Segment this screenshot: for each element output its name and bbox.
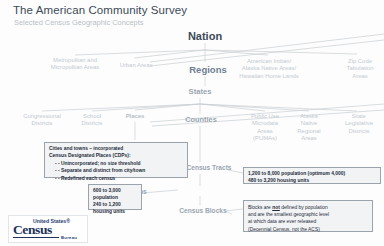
callout-tracts-line-2: 480 to 3,200 housing units <box>247 177 377 184</box>
node-pumas: Public Use Microdata Areas (PUMAs) <box>244 113 286 143</box>
callout-block-groups: 600 to 3,000 population 240 to 1,200 hou… <box>88 184 142 210</box>
node-counties: Counties <box>178 116 224 125</box>
callout-bgroups-line-1: 600 to 3,000 <box>92 187 138 194</box>
callout-census-tracts: 1,200 to 8,000 population (optimum 4,000… <box>243 167 381 184</box>
callout-bgroups-line-4: housing units <box>92 208 138 215</box>
slide-canvas: The American Community Survey Selected C… <box>0 0 384 246</box>
callout-census-blocks: Blocks are not defined by population and… <box>243 200 373 232</box>
logo-underline-rule <box>13 237 59 238</box>
node-metropolitan-areas: Metropolitan and Micropolitan Areas <box>42 57 108 72</box>
node-congressional-districts: Congressional Districts <box>16 113 68 128</box>
node-states: States <box>170 88 230 97</box>
callout-blocks-line-1: Blocks are not defined by population <box>248 204 368 211</box>
node-school-districts: School Districts <box>72 113 112 128</box>
callout-bgroups-line-2: population <box>92 194 138 201</box>
callout-places-line-2: Census Designated Places (CDPs): <box>48 152 184 159</box>
node-census-tracts: Census Tracts <box>185 164 233 172</box>
callout-tracts-line-1: 1,200 to 8,000 population (optimum 4,000… <box>247 170 377 177</box>
node-census-blocks: Census Blocks <box>178 207 228 215</box>
page-title: The American Community Survey <box>13 4 187 16</box>
callout-bgroups-line-3: 240 to 1,200 <box>92 201 138 208</box>
node-regions: Regions <box>178 64 238 75</box>
callout-places-sub-2: - - Separate and distinct from city/town <box>48 167 184 174</box>
node-urban-areas: Urban Areas <box>116 62 156 69</box>
callout-blocks-emphasis: not <box>272 205 280 210</box>
callout-blocks-line-2: and are the smallest geographic level <box>248 211 368 218</box>
callout-places: Cities and towns – incorporated Census D… <box>44 142 188 178</box>
node-zip-code-tabulation-areas: Zip Code Tabulation Areas <box>340 58 380 80</box>
node-nation: Nation <box>170 30 240 43</box>
callout-blocks-line-3: at which data are ever released <box>248 218 368 225</box>
callout-blocks-text-b: defined by population <box>280 205 328 210</box>
logo-bureau-text: Bureau <box>61 235 77 240</box>
census-bureau-logo: United States® Census Bureau <box>8 215 88 243</box>
node-american-indian-areas: American Indian/ Alaska Native Areas/ Ha… <box>238 58 300 80</box>
callout-places-line-1: Cities and towns – incorporated <box>48 145 184 152</box>
node-places: Places <box>118 113 152 120</box>
callout-places-sub-1: - - Unincorporated; no size threshold <box>48 160 184 167</box>
callout-blocks-text-a: Blocks are <box>248 205 272 210</box>
node-alaska-native-regional-areas: Alaska Native Regional Areas <box>292 113 326 143</box>
page-subtitle: Selected Census Geographic Concepts <box>14 18 143 27</box>
logo-census-wordmark: Census <box>13 223 52 237</box>
callout-places-sub-3: - - Redefined each census <box>48 175 184 182</box>
callout-blocks-line-4: (Decennial Census, not the ACS) <box>248 226 368 233</box>
node-state-legislative-districts: State Legislative Districts <box>337 113 381 135</box>
